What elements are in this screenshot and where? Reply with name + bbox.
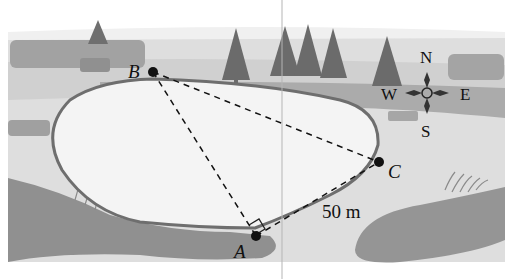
- bush-small-left: [8, 120, 50, 136]
- lake-diagram: A B C 50 m N S W E: [0, 0, 521, 279]
- label-A: A: [232, 241, 246, 262]
- point-A: [251, 231, 261, 241]
- compass-east: E: [460, 85, 470, 104]
- label-B: B: [128, 61, 140, 82]
- point-B: [148, 67, 158, 77]
- point-C: [374, 157, 384, 167]
- measurement-label: 50 m: [322, 201, 361, 222]
- label-C: C: [388, 161, 401, 182]
- bush-hedge-right: [448, 54, 504, 80]
- bush-hedge-left: [10, 40, 145, 72]
- compass-north: N: [420, 48, 432, 67]
- compass-west: W: [381, 85, 398, 104]
- bush-small-right: [388, 111, 418, 121]
- compass-south: S: [421, 122, 430, 141]
